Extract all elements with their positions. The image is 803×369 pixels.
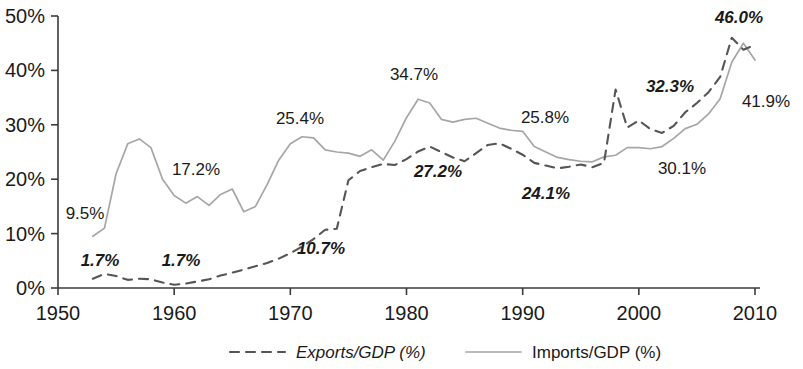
annotation-label: 41.9% bbox=[742, 92, 790, 111]
y-tick-label: 30% bbox=[5, 114, 45, 136]
data-point-annotations: 9.5%17.2%25.4%34.7%25.8%30.1%41.9%1.7%1.… bbox=[66, 8, 790, 270]
annotation-label: 10.7% bbox=[297, 239, 345, 258]
annotation-label: 17.2% bbox=[172, 160, 220, 179]
annotation-label: 32.3% bbox=[646, 77, 694, 96]
legend: Exports/GDP (%) Imports/GDP (%) bbox=[230, 343, 661, 362]
x-axis-ticks bbox=[58, 288, 755, 295]
legend-label-imports: Imports/GDP (%) bbox=[532, 343, 661, 362]
x-tick-label: 1970 bbox=[268, 302, 313, 324]
y-tick-label: 20% bbox=[5, 168, 45, 190]
x-tick-label: 1950 bbox=[36, 302, 81, 324]
x-axis-group: 1950196019701980199020002010 bbox=[36, 288, 778, 324]
annotation-label: 9.5% bbox=[66, 204, 105, 223]
y-tick-label: 0% bbox=[16, 277, 45, 299]
annotation-label: 34.7% bbox=[390, 65, 438, 84]
y-tick-label: 10% bbox=[5, 223, 45, 245]
x-tick-label: 2010 bbox=[733, 302, 778, 324]
x-tick-label: 1990 bbox=[500, 302, 545, 324]
y-tick-label: 40% bbox=[5, 59, 45, 81]
annotation-label: 1.7% bbox=[162, 251, 201, 270]
y-tick-label: 50% bbox=[5, 5, 45, 27]
annotation-label: 25.8% bbox=[521, 108, 569, 127]
line-chart: 0%10%20%30%40%50% 1950196019701980199020… bbox=[0, 0, 803, 369]
annotation-label: 30.1% bbox=[658, 159, 706, 178]
y-axis-ticks bbox=[51, 16, 58, 288]
annotation-label: 46.0% bbox=[714, 8, 763, 27]
y-axis-group: 0%10%20%30%40%50% bbox=[5, 5, 58, 299]
x-tick-label: 2000 bbox=[617, 302, 662, 324]
annotation-label: 25.4% bbox=[276, 109, 324, 128]
x-tick-label: 1960 bbox=[152, 302, 197, 324]
x-axis-tick-labels: 1950196019701980199020002010 bbox=[36, 302, 778, 324]
x-tick-label: 1980 bbox=[384, 302, 429, 324]
annotation-label: 27.2% bbox=[413, 162, 462, 181]
y-axis-tick-labels: 0%10%20%30%40%50% bbox=[5, 5, 45, 299]
legend-label-exports: Exports/GDP (%) bbox=[296, 343, 426, 362]
chart-container: 0%10%20%30%40%50% 1950196019701980199020… bbox=[0, 0, 803, 369]
annotation-label: 1.7% bbox=[81, 251, 120, 270]
annotation-label: 24.1% bbox=[521, 184, 570, 203]
